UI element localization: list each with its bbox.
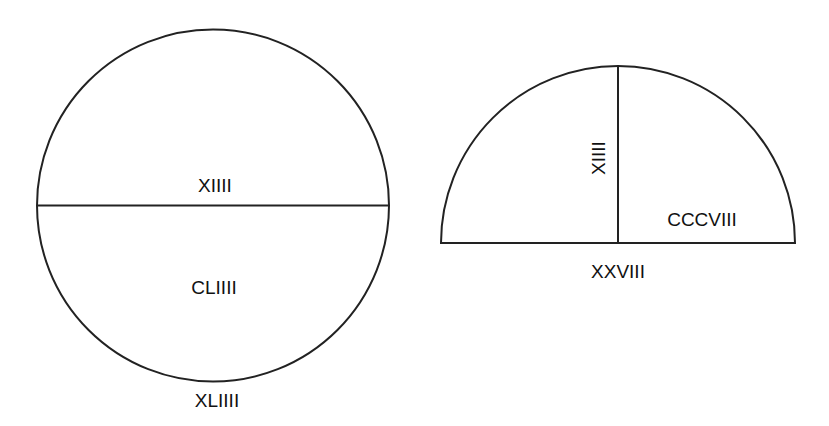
- semicircle-figure: XIIII CCCVIII XXVIII: [441, 66, 795, 282]
- semicircle-diameter-label: XXVIII: [591, 261, 645, 282]
- circle-area-label: CLIIII: [191, 277, 236, 298]
- circle-diameter-label: XIIII: [198, 175, 232, 196]
- circle-figure: XIIII CLIIII XLIIII: [37, 30, 389, 412]
- semicircle-radius-label: XIIII: [588, 141, 609, 175]
- semicircle-area-label: CCCVIII: [667, 209, 737, 230]
- circle-circumference-label: XLIIII: [195, 390, 239, 411]
- diagram-canvas: XIIII CLIIII XLIIII XIIII CCCVIII XXVIII: [0, 0, 829, 426]
